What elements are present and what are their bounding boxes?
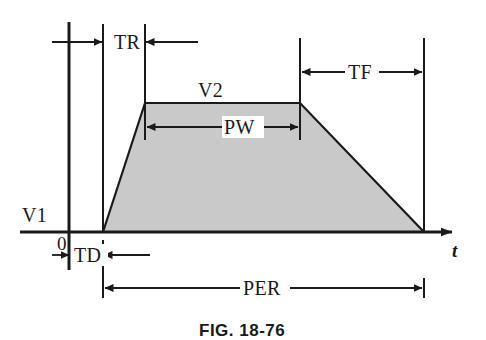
level-label-v2: V2 xyxy=(198,80,223,100)
dimension-label-pw: PW xyxy=(224,117,255,137)
dimension-label-tf: TF xyxy=(348,62,372,82)
dimension-label-tr: TR xyxy=(114,32,140,52)
figure-caption: FIG. 18-76 xyxy=(199,322,285,339)
level-label-v1: V1 xyxy=(22,205,47,225)
dimension-label-per: PER xyxy=(243,278,281,298)
time-axis-label: t xyxy=(452,241,457,260)
origin-label: 0 xyxy=(57,234,67,253)
dimension-label-td: TD xyxy=(74,245,101,265)
